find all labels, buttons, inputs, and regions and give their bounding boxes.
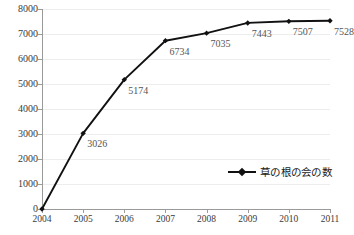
data-point-marker [163,38,168,43]
y-axis-tick-label: 6000 [0,54,38,64]
chart-legend[interactable]: 草の根の会の数 [228,164,332,179]
gridline [42,134,330,135]
x-axis-tick-label: 2007 [145,214,185,224]
x-axis-tick-label: 2004 [22,214,62,224]
gridline [42,184,330,185]
data-point-marker [286,19,291,24]
y-axis-tick-label: 5000 [0,79,38,89]
x-axis-tick-label: 2008 [187,214,227,224]
gridline [42,34,330,35]
data-point-label: 3026 [87,139,107,149]
data-point-label: 6734 [169,47,189,57]
y-axis-tick-label: 0 [0,204,38,214]
x-axis-tick-label: 2009 [228,214,268,224]
x-axis-tick-label: 2005 [63,214,103,224]
data-point-label: 5174 [128,86,148,96]
gridline [42,9,330,10]
data-point-label: 7528 [334,27,354,37]
data-point-marker [327,18,332,23]
y-axis-tick-label: 1000 [0,179,38,189]
x-axis-tick-label: 2011 [310,214,350,224]
data-point-marker [245,20,250,25]
line-marker-icon [228,167,256,176]
data-point-label: 7507 [293,27,313,37]
data-point-label: 7443 [252,29,272,39]
gridline [42,84,330,85]
gridline [42,59,330,60]
gridline [42,109,330,110]
x-axis-line [42,209,331,210]
y-axis-tick-label: 7000 [0,29,38,39]
gridline [42,159,330,160]
data-point-label: 7035 [211,39,231,49]
y-axis-tick-label: 2000 [0,154,38,164]
y-axis-tick-label: 8000 [0,4,38,14]
y-axis-line [42,9,43,210]
x-axis-tick-label: 2010 [269,214,309,224]
y-axis-tick-label: 3000 [0,129,38,139]
data-point-marker [122,77,127,82]
y-axis-tick-label: 4000 [0,104,38,114]
x-axis-tick-label: 2006 [104,214,144,224]
legend-entry-label: 草の根の会の数 [260,164,332,179]
